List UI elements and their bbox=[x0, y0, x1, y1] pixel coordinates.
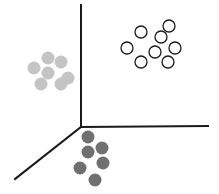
data-point bbox=[149, 46, 161, 58]
depth-axis bbox=[15, 127, 81, 179]
data-point bbox=[162, 56, 174, 68]
data-point bbox=[155, 31, 167, 43]
data-point bbox=[163, 20, 175, 32]
data-point bbox=[121, 42, 133, 54]
data-point bbox=[35, 78, 48, 91]
cluster-dark-gray bbox=[74, 131, 110, 187]
cluster-light-gray bbox=[28, 52, 75, 91]
axes bbox=[15, 5, 208, 179]
data-point bbox=[55, 56, 68, 69]
data-point bbox=[135, 56, 147, 68]
horizontal-axis bbox=[81, 126, 208, 127]
data-point bbox=[28, 62, 41, 75]
data-point bbox=[97, 157, 110, 170]
data-point bbox=[42, 67, 55, 80]
data-point bbox=[96, 142, 109, 155]
data-point bbox=[169, 42, 181, 54]
data-point bbox=[135, 26, 147, 38]
data-point bbox=[55, 78, 68, 91]
data-point bbox=[89, 174, 102, 187]
data-point bbox=[82, 131, 95, 144]
data-point bbox=[74, 162, 87, 175]
clusters bbox=[28, 20, 182, 187]
cluster-open-circles bbox=[121, 20, 181, 68]
data-point bbox=[42, 52, 55, 65]
cluster-diagram bbox=[0, 0, 219, 194]
data-point bbox=[82, 146, 95, 159]
